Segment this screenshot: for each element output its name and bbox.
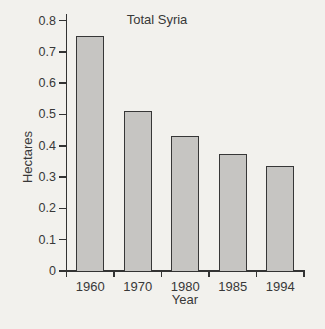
y-axis-line (66, 14, 68, 273)
chart-title: Total Syria (127, 12, 188, 27)
y-tick-label: 0.4 (24, 139, 56, 153)
y-tick-label: 0.3 (24, 170, 56, 184)
bar-1960 (76, 36, 104, 271)
y-tick-mark (59, 208, 67, 210)
y-tick-mark (59, 82, 67, 84)
bar-1970 (124, 111, 152, 271)
y-tick-label: 0.1 (24, 233, 56, 247)
y-tick-mark (59, 239, 67, 241)
x-tick-mark (66, 272, 68, 278)
y-tick-mark (59, 20, 67, 22)
bar-1985 (219, 154, 247, 271)
y-tick-label: 0 (24, 264, 56, 278)
y-tick-mark (59, 145, 67, 147)
x-tick-mark (303, 272, 305, 278)
x-tick-mark (256, 272, 258, 278)
x-tick-mark (161, 272, 163, 278)
x-tick-label: 1970 (123, 279, 152, 294)
x-tick-label: 1980 (171, 279, 200, 294)
y-tick-label: 0.2 (24, 201, 56, 215)
x-tick-mark (208, 272, 210, 278)
x-axis-label: Year (172, 292, 198, 307)
bar-1994 (266, 166, 294, 271)
x-tick-label: 1985 (218, 279, 247, 294)
y-tick-mark (59, 51, 67, 53)
y-tick-label: 0.5 (24, 107, 56, 121)
x-tick-mark (113, 272, 115, 278)
bar-1980 (171, 136, 199, 271)
y-tick-label: 0.8 (24, 14, 56, 28)
y-tick-label: 0.7 (24, 45, 56, 59)
y-tick-mark (59, 176, 67, 178)
x-tick-label: 1994 (266, 279, 295, 294)
x-tick-label: 1960 (76, 279, 105, 294)
y-tick-label: 0.6 (24, 76, 56, 90)
bar-chart-figure: Total Syria Hectares Year 00.10.20.30.40… (0, 0, 325, 329)
y-tick-mark (59, 114, 67, 116)
